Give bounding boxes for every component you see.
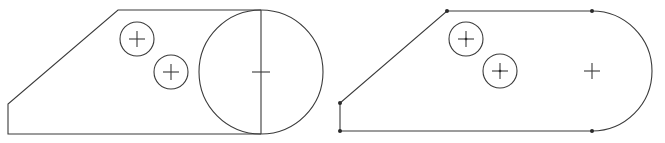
left-hole-2 <box>154 55 188 89</box>
left-hole-1 <box>120 22 154 56</box>
right-hole-1 <box>449 22 483 56</box>
right-sketch <box>338 9 652 133</box>
cad-sketch-diagram <box>0 0 665 143</box>
right-hole-2 <box>483 54 517 88</box>
left-outline <box>8 10 261 134</box>
left-sketch <box>8 10 323 134</box>
right-arc-center-mark <box>584 63 600 79</box>
